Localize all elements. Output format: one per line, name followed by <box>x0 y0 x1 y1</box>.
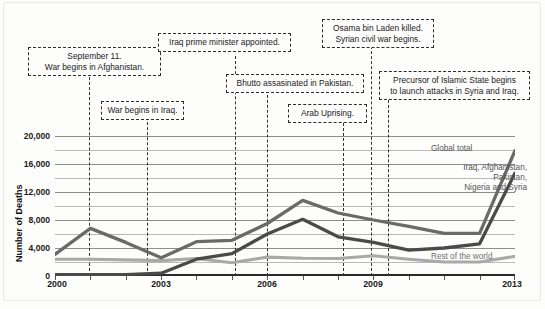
x-tickmark-2010 <box>409 276 410 280</box>
x-tickmark-2008 <box>338 276 339 280</box>
x-tickmark-2007 <box>303 276 304 280</box>
callout-iraq-war: War begins in Iraq. <box>101 101 184 120</box>
callout-sept11: September 11. War begins in Afghanistan. <box>28 47 161 76</box>
series-label-five-countries: Iraq, Afghanistan, Pakistan, Nigeria and… <box>424 163 527 193</box>
callout-bhutto: Bhutto assasinated in Pakistan. <box>226 74 364 93</box>
y-tick-16000: 16,000 <box>20 159 50 169</box>
x-tickmark-2001 <box>90 276 91 280</box>
x-tickmark-2002 <box>126 276 127 280</box>
y-tick-4000: 4,000 <box>20 243 50 253</box>
x-tick-label-2006: 2006 <box>257 279 277 289</box>
callout-iraq-pm: Iraq prime minister appointed. <box>158 33 291 52</box>
x-tick-label-2009: 2009 <box>363 279 383 289</box>
x-tickmark-2004 <box>196 276 197 280</box>
x-tickmark-2005 <box>232 276 233 280</box>
series-label-rest-of-world: Rest of the world <box>431 252 535 262</box>
callout-arab-uprising: Arab Uprising. <box>288 104 367 123</box>
callout-osama: Osama bin Laden killed. Syrian civil war… <box>322 19 434 48</box>
y-tick-8000: 8,000 <box>20 215 50 225</box>
callout-isis: Precursor of Islamic State begins to lau… <box>379 71 530 100</box>
x-tick-label-2003: 2003 <box>151 279 171 289</box>
x-tick-label-2013: 2013 <box>502 279 522 289</box>
x-tickmark-2011 <box>444 276 445 280</box>
series-label-global-total: Global total <box>431 144 539 154</box>
y-tick-20000: 20,000 <box>20 131 50 141</box>
x-tickmark-2012 <box>480 276 481 280</box>
y-tick-12000: 12,000 <box>20 187 50 197</box>
x-tick-label-2000: 2000 <box>47 279 67 289</box>
y-tick-0: 0 <box>20 271 50 281</box>
